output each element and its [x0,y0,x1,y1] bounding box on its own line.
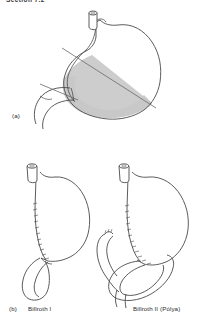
panel-a-caption: (a) [12,112,20,119]
billroth2-efferent-limb-2 [125,294,126,308]
billroth1-esophagus-stump [27,164,37,183]
panel-b-caption: (b) [9,305,17,312]
panel-a-illustration [0,0,205,130]
billroth2-jejunal-loop-inner [120,265,164,295]
billroth2-stomach-outline [132,172,188,265]
billroth-1-label: Billroth I [28,305,51,312]
billroth2-esophagus-stump [119,164,129,183]
billroth1-duodenum [22,258,49,300]
billroth-2-label: Billroth II (Pólya) [133,305,180,312]
billroth-2-illustration [95,158,205,308]
billroth2-duodenal-stump [97,229,119,292]
billroth2-lesser-curve [127,178,141,262]
resection-wedge [65,55,152,118]
figure-page: Section 7.2 (a) [0,0,205,322]
billroth1-stomach-outline [40,172,90,261]
billroth1-lesser-curve [35,178,46,260]
esophageal-stump [89,11,106,30]
